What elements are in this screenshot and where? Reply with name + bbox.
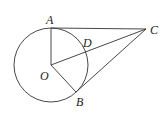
geometry-diagram: A C D O B — [0, 0, 166, 116]
segment-oc — [51, 29, 146, 65]
label-o: O — [40, 69, 49, 83]
segment-ob — [51, 65, 76, 92]
label-c: C — [150, 23, 159, 37]
label-b: B — [76, 95, 84, 109]
label-a: A — [45, 13, 54, 27]
segment-ac — [51, 28, 146, 29]
label-d: D — [82, 36, 92, 50]
